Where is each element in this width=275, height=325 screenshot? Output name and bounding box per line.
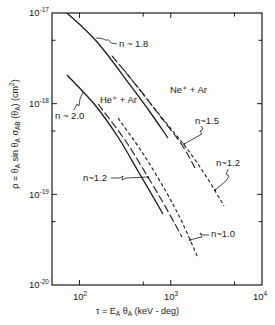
- pointer-n-2-0: [74, 92, 83, 110]
- y-axis-title: ρ = θA sin θA σAB (θA) (cm2): [10, 64, 20, 204]
- pointer-dot: [183, 143, 185, 145]
- annotation-n-1-2-he: n~1.2: [83, 173, 107, 183]
- annotation-n-1-2-ne: n~1.2: [216, 158, 240, 168]
- x-tick-label: 104: [245, 292, 275, 302]
- pointer-n-1-8: [96, 38, 117, 44]
- x-axis-title: τ = EA θA (keV - deg): [96, 306, 179, 316]
- chart-figure: 10-17 10-18 10-19 10-20 102 103 104 τ = …: [0, 0, 275, 325]
- axes-frame: [52, 13, 262, 285]
- annotation-n-1-5: n~1.5: [195, 116, 219, 126]
- annotation-n-2-0: n ~ 2.0: [55, 111, 84, 121]
- x-tick-label: 103: [156, 292, 186, 302]
- curve-he-ar-long-dash: [98, 104, 182, 237]
- annotation-ne-ar: Ne⁺ + Ar: [170, 85, 207, 95]
- pointer-n-1-5: [184, 126, 203, 144]
- x-tick-label: 102: [65, 292, 95, 302]
- pointer-n-1-0: [190, 233, 209, 240]
- y-tick-label: 10-17: [9, 8, 49, 18]
- curve-ne-ar-long-dash: [112, 56, 195, 168]
- annotation-n-1-0: n~1.0: [211, 229, 235, 239]
- annotation-he-ar: He⁺ + Ar: [100, 95, 137, 105]
- y-tick-label: 10-20: [9, 280, 49, 290]
- curve-he-ar-short-dash: [118, 118, 198, 258]
- pointer-n-1-2-ne: [215, 169, 229, 190]
- annotation-n-1-8: n ~ 1.8: [119, 39, 148, 49]
